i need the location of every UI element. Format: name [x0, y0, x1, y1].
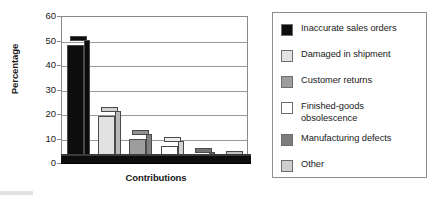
legend-label-5: Other — [301, 159, 324, 171]
y-tick-label-30: 30 — [30, 85, 56, 95]
legend-swatch-icon-1 — [281, 50, 293, 62]
chart-legend: Inaccurate sales ordersDamaged in shipme… — [272, 12, 427, 178]
legend-label-2: Customer returns — [301, 75, 372, 87]
y-tick-label-20: 20 — [30, 109, 56, 119]
legend-swatch-icon-4 — [281, 134, 293, 146]
legend-swatch-icon-3 — [281, 102, 293, 114]
legend-label-4: Manufacturing defects — [301, 133, 391, 145]
scan-artifact — [0, 191, 33, 195]
bar-chart-figure: Percentage 6050403020100 Contributions I… — [0, 0, 437, 204]
bar-top-face-3 — [164, 137, 181, 142]
y-tick-label-60: 60 — [30, 11, 56, 21]
legend-label-1: Damaged in shipment — [301, 49, 391, 61]
bar-front-face-0 — [67, 45, 84, 163]
floor-front-edge — [61, 163, 251, 164]
legend-swatch-icon-2 — [281, 76, 293, 88]
legend-item-1[interactable]: Damaged in shipment — [281, 49, 391, 62]
x-axis-title: Contributions — [61, 172, 251, 183]
legend-item-0[interactable]: Inaccurate sales orders — [281, 23, 396, 36]
bar-0[interactable] — [67, 40, 84, 163]
bar-side-face-1 — [115, 111, 121, 158]
bar-side-face-0 — [84, 40, 90, 158]
y-tick-label-10: 10 — [30, 134, 56, 144]
bar-top-face-2 — [132, 130, 149, 135]
legend-item-2[interactable]: Customer returns — [281, 75, 372, 88]
legend-item-4[interactable]: Manufacturing defects — [281, 133, 391, 146]
legend-label-3: Finished-goods obsolescence — [301, 101, 364, 124]
y-tick-label-0: 0 — [30, 158, 56, 168]
y-tick-label-50: 50 — [30, 36, 56, 46]
bar-top-face-0 — [70, 36, 87, 41]
legend-label-0: Inaccurate sales orders — [301, 23, 396, 35]
bar-top-face-1 — [101, 107, 118, 112]
legend-swatch-icon-5 — [281, 160, 293, 172]
legend-item-3[interactable]: Finished-goods obsolescence — [281, 101, 364, 124]
y-tick-label-40: 40 — [30, 60, 56, 70]
bar-top-face-4 — [195, 148, 212, 153]
legend-item-5[interactable]: Other — [281, 159, 324, 172]
legend-swatch-icon-0 — [281, 24, 293, 36]
plot-area — [61, 16, 248, 163]
y-axis-title: Percentage — [9, 19, 23, 119]
